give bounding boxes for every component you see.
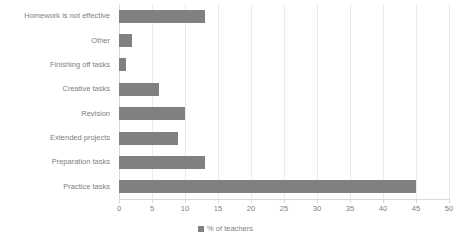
tick-label: 15 [206, 204, 230, 214]
bar-row [119, 150, 205, 174]
bar [119, 58, 126, 71]
tick-mark [152, 199, 153, 203]
legend-swatch-icon [198, 226, 204, 232]
tick-label: 5 [140, 204, 164, 214]
bar-row [119, 102, 185, 126]
category-label: Practice tasks [0, 182, 110, 192]
tick-label: 50 [437, 204, 458, 214]
category-label: Homework is not effective [0, 11, 110, 21]
tick-label: 35 [338, 204, 362, 214]
tick-mark [350, 199, 351, 203]
tick-mark [449, 199, 450, 203]
tick-label: 40 [371, 204, 395, 214]
tick-mark [119, 199, 120, 203]
gridline [218, 4, 219, 199]
tick-mark [218, 199, 219, 203]
gridline [350, 4, 351, 199]
tick-label: 45 [404, 204, 428, 214]
tick-mark [317, 199, 318, 203]
bar-row [119, 4, 205, 28]
category-label-row: Extended projects [0, 126, 110, 150]
tick-label: 25 [272, 204, 296, 214]
tick-mark [284, 199, 285, 203]
legend: % of teachers [0, 224, 451, 234]
tick-mark [416, 199, 417, 203]
category-label: Other [0, 36, 110, 46]
bar [119, 132, 178, 145]
bar-row [119, 175, 416, 199]
tick-mark [185, 199, 186, 203]
category-label-row: Practice tasks [0, 175, 110, 199]
category-label: Revision [0, 109, 110, 119]
gridline [317, 4, 318, 199]
bar [119, 180, 416, 193]
plot-area [119, 4, 449, 199]
gridline [284, 4, 285, 199]
tick-label: 20 [239, 204, 263, 214]
gridline [416, 4, 417, 199]
category-label: Extended projects [0, 133, 110, 143]
tick-mark [383, 199, 384, 203]
gridline [449, 4, 450, 199]
category-label-row: Preparation tasks [0, 150, 110, 174]
legend-label: % of teachers [207, 224, 253, 234]
bar [119, 10, 205, 23]
category-label: Creative tasks [0, 84, 110, 94]
gridline [383, 4, 384, 199]
bar-row [119, 28, 132, 52]
bar [119, 107, 185, 120]
category-label-row: Other [0, 28, 110, 52]
bar [119, 156, 205, 169]
tick-mark [251, 199, 252, 203]
bar-row [119, 77, 159, 101]
category-label-row: Finishing off tasks [0, 53, 110, 77]
tick-label: 10 [173, 204, 197, 214]
category-axis-labels: Homework is not effective Other Finishin… [0, 4, 114, 199]
bar [119, 34, 132, 47]
category-label: Preparation tasks [0, 157, 110, 167]
category-label-row: Creative tasks [0, 77, 110, 101]
bar-row [119, 53, 126, 77]
category-label-row: Revision [0, 102, 110, 126]
bar [119, 83, 159, 96]
tick-label: 30 [305, 204, 329, 214]
tick-label: 0 [107, 204, 131, 214]
category-label-row: Homework is not effective [0, 4, 110, 28]
gridline [251, 4, 252, 199]
bar-row [119, 126, 178, 150]
category-label: Finishing off tasks [0, 60, 110, 70]
